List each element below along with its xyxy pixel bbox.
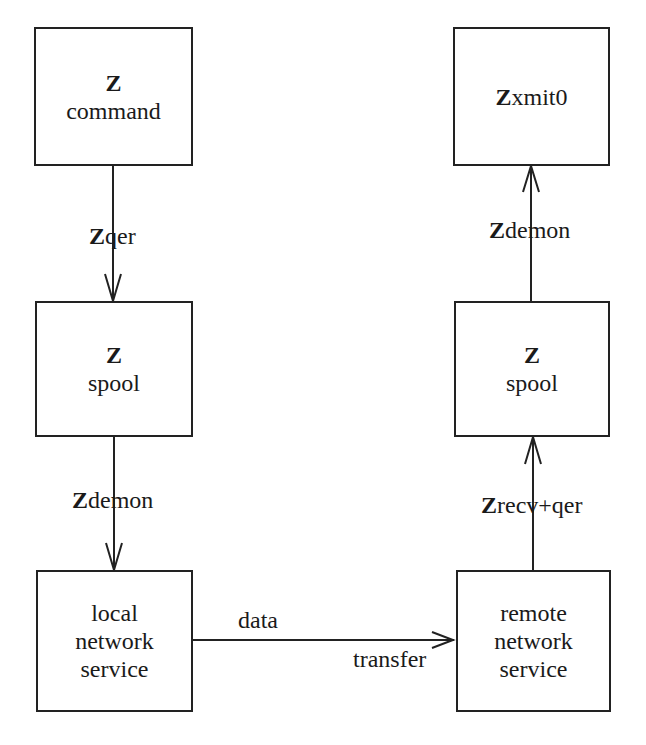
z-prefix: Z [72,487,88,513]
node-title: Zxmit0 [495,83,567,111]
node-title: Z [524,341,540,369]
node-subtitle: spool [506,369,558,397]
edge-label-rest: qer [105,223,136,249]
node-local-network-service: local network service [36,570,193,712]
node-line: network [75,627,154,655]
edge-label-zdemon-remote: Zdemon [489,216,570,244]
node-line: network [494,627,573,655]
node-z-spool-local: Z spool [35,301,193,437]
node-subtitle: command [66,97,161,125]
edge-label-data: data [238,606,278,634]
node-subtitle: spool [88,369,140,397]
z-prefix: Z [495,84,511,110]
node-title: Z [106,341,122,369]
z-prefix: Z [89,223,105,249]
edge-label-rest: demon [505,217,570,243]
edge-label-rest: demon [88,487,153,513]
z-prefix: Z [489,217,505,243]
z-prefix: Z [481,492,497,518]
node-line: service [500,655,568,683]
node-line: local [91,599,138,627]
node-z-command: Z command [34,27,193,166]
edge-label-transfer: transfer [353,645,426,673]
node-title-rest: xmit0 [512,84,568,110]
edge-label-rest: recv+qer [497,492,582,518]
node-z-spool-remote: Z spool [454,301,610,437]
edge-label-zqer: Zqer [89,222,136,250]
node-remote-network-service: remote network service [456,570,611,712]
node-line: remote [500,599,567,627]
edge-label-zrecv-qer: Zrecv+qer [481,491,583,519]
node-title: Z [105,69,121,97]
node-zxmit0: Zxmit0 [453,27,610,166]
edge-label-zdemon-local: Zdemon [72,486,153,514]
node-line: service [81,655,149,683]
